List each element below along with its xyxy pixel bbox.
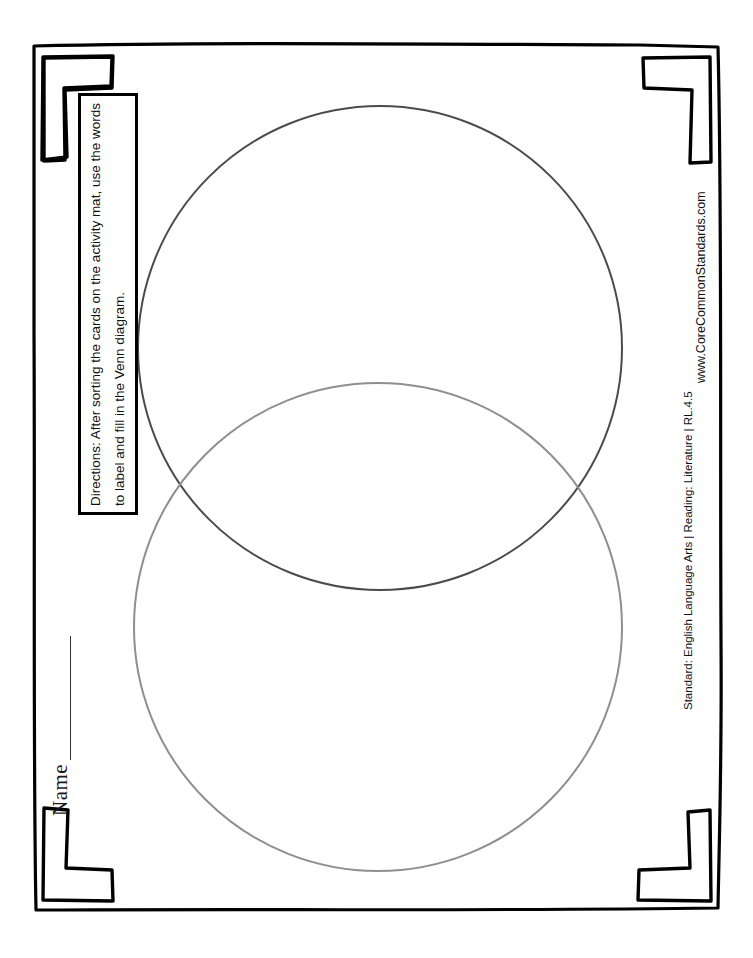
name-label: Name [50,764,71,816]
name-input-line[interactable] [54,636,71,760]
directions-box: Directions: After sorting the cards on t… [78,93,138,515]
venn-circle-top[interactable] [138,106,622,590]
directions-text: Directions: After sorting the cards on t… [84,102,131,506]
name-field[interactable]: Name [50,636,90,816]
website-url: www.CoreCommonStandards.com [694,153,708,383]
venn-circle-bottom[interactable] [134,383,622,871]
standard-label: Standard: English Language Arts | Readin… [682,380,694,710]
worksheet-page: Directions: After sorting the cards on t… [0,0,753,958]
